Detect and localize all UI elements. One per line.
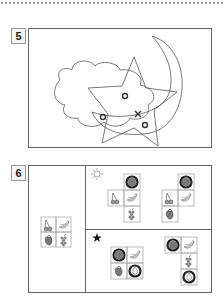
star-icon [92,233,102,242]
question-6-drawing [0,0,224,304]
sun-icon [91,168,103,180]
